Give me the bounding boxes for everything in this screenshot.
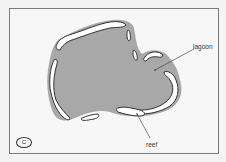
reef-label: reef: [146, 141, 157, 148]
lagoon-label: lagoon: [193, 43, 213, 50]
reef-leader-line: [137, 114, 150, 138]
atoll-diagram: [0, 0, 226, 162]
panel-label-badge: C: [16, 137, 32, 148]
